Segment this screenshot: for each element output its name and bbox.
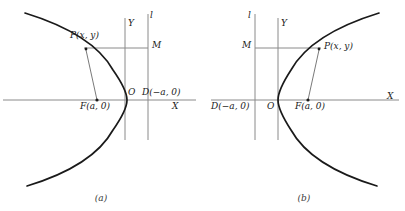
segment-p-to-f bbox=[86, 50, 97, 100]
label-origin-o: O bbox=[128, 88, 135, 97]
figure-a-caption: (a) bbox=[0, 193, 202, 203]
label-point-f: F(a, 0) bbox=[80, 102, 110, 111]
label-origin-o: O bbox=[267, 102, 274, 111]
label-directrix-l: l bbox=[150, 11, 153, 20]
label-directrix-l: l bbox=[248, 11, 251, 20]
segment-p-to-f bbox=[308, 50, 319, 100]
label-point-d: D(−a, 0) bbox=[142, 88, 181, 97]
label-axis-x: X bbox=[172, 102, 178, 111]
label-axis-y: Y bbox=[128, 19, 134, 28]
point-p-marker bbox=[85, 48, 88, 51]
label-point-m: M bbox=[242, 41, 251, 50]
label-point-d: D(−a, 0) bbox=[211, 102, 250, 111]
point-p-marker bbox=[318, 48, 321, 51]
figure-b: P(x, y) M F(a, 0) D(−a, 0) Y l O X (b) bbox=[203, 0, 405, 211]
label-axis-x: X bbox=[387, 92, 393, 101]
label-point-m: M bbox=[152, 41, 161, 50]
label-point-p: P(x, y) bbox=[70, 31, 99, 40]
label-point-p: P(x, y) bbox=[324, 42, 353, 51]
figure-b-caption: (b) bbox=[203, 193, 405, 203]
figure-pair: P(x, y) M F(a, 0) D(−a, 0) Y l O X (a) bbox=[0, 0, 405, 211]
figure-a: P(x, y) M F(a, 0) D(−a, 0) Y l O X (a) bbox=[0, 0, 202, 211]
label-axis-y: Y bbox=[281, 19, 287, 28]
label-point-f: F(a, 0) bbox=[295, 102, 325, 111]
